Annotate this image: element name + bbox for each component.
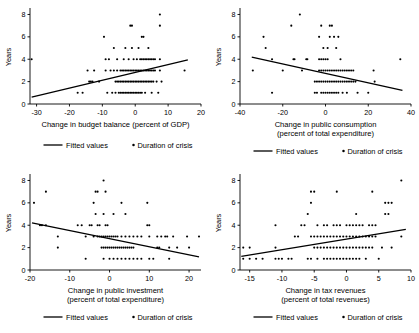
scatter-point: [297, 235, 299, 237]
y-tick-label: 2: [22, 77, 26, 86]
scatter-point: [322, 69, 324, 71]
scatter-point: [318, 58, 320, 60]
legend-dot-swatch: [342, 150, 345, 153]
scatter-point: [265, 47, 267, 49]
scatter-point: [172, 235, 174, 237]
scatter-point: [326, 235, 328, 237]
scatter-point: [322, 81, 324, 83]
scatter-point: [348, 81, 350, 83]
fitted-values-line: [32, 223, 199, 257]
scatter-point: [349, 247, 351, 249]
scatter-point: [333, 235, 335, 237]
scatter-point: [112, 213, 114, 215]
scatter-point: [101, 247, 103, 249]
axis-lines: [30, 174, 201, 270]
scatter-point: [336, 224, 338, 226]
scatter-point: [358, 224, 360, 226]
scatter-point: [329, 69, 331, 71]
scatter-point: [320, 25, 322, 27]
scatter-point: [114, 235, 116, 237]
scatter-point: [186, 235, 188, 237]
scatter-point: [387, 202, 389, 204]
scatter-point: [367, 92, 369, 94]
y-axis-title: Years: [214, 47, 223, 66]
scatter-point: [242, 258, 244, 260]
scatter-point: [318, 69, 320, 71]
scatter-point: [140, 258, 142, 260]
scatter-point: [103, 36, 105, 38]
scatter-point: [313, 191, 315, 193]
scatter-point: [314, 92, 316, 94]
scatter-point: [249, 258, 251, 260]
scatter-point: [352, 224, 354, 226]
plot-canvas: 02468-20-1001020YearsChange in public in…: [0, 166, 209, 332]
scatter-point: [291, 258, 293, 260]
scatter-point: [107, 235, 109, 237]
scatter-plot-figure: 02468-30-20-1001020YearsChange in budget…: [0, 0, 419, 333]
legend: Fitted valuesDuration of crisis: [254, 313, 403, 322]
scatter-point: [91, 224, 93, 226]
scatter-point: [352, 235, 354, 237]
scatter-point: [108, 247, 110, 249]
scatter-point: [57, 235, 59, 237]
scatter-point: [99, 224, 101, 226]
scatter-point: [287, 258, 289, 260]
scatter-point: [337, 69, 339, 71]
x-tick-label: 0: [108, 274, 112, 283]
scatter-point: [384, 202, 386, 204]
scatter-point: [249, 247, 251, 249]
scatter-point: [110, 247, 112, 249]
x-tick-label: 5: [377, 274, 381, 283]
scatter-point: [333, 224, 335, 226]
x-axis-title: Change in public consumption(percent of …: [275, 120, 377, 138]
scatter-point: [320, 235, 322, 237]
scatter-point: [349, 235, 351, 237]
scatter-point: [271, 58, 273, 60]
scatter-point: [322, 47, 324, 49]
scatter-point: [352, 258, 354, 260]
legend-label-duration-of-crisis: Duration of crisis: [348, 147, 403, 156]
scatter-point: [342, 235, 344, 237]
scatter-point: [339, 247, 341, 249]
scatter-point: [112, 258, 114, 260]
y-axis-title: Years: [4, 213, 13, 232]
x-tick-label: 40: [407, 108, 415, 117]
scatter-point: [105, 69, 107, 71]
scatter-point: [310, 235, 312, 237]
x-tick-label: 20: [197, 108, 205, 117]
scatter-point: [324, 81, 326, 83]
scatter-points: [242, 179, 402, 259]
scatter-point: [362, 247, 364, 249]
scatter-point: [327, 92, 329, 94]
scatter-point: [316, 247, 318, 249]
scatter-point: [346, 81, 348, 83]
scatter-point: [381, 247, 383, 249]
scatter-point: [358, 247, 360, 249]
scatter-point: [345, 224, 347, 226]
scatter-point: [339, 258, 341, 260]
scatter-point: [344, 69, 346, 71]
y-tick-label: 4: [232, 221, 236, 230]
legend-label-fitted-values: Fitted values: [276, 313, 318, 322]
scatter-point: [333, 81, 335, 83]
scatter-point: [103, 258, 105, 260]
scatter-point: [327, 47, 329, 49]
scatter-point: [137, 47, 139, 49]
scatter-point: [368, 224, 370, 226]
scatter-point: [116, 247, 118, 249]
plot-canvas: 02468-15-10-50510YearsChange in tax reve…: [210, 166, 419, 332]
scatter-point: [339, 235, 341, 237]
scatter-point: [293, 58, 295, 60]
scatter-point: [400, 235, 402, 237]
scatter-point: [105, 247, 107, 249]
scatter-point: [352, 247, 354, 249]
scatter-point: [262, 36, 264, 38]
panel-tax-revenues: 02468-15-10-50510YearsChange in tax reve…: [210, 166, 419, 332]
x-axis-title-line1: Change in tax revenues: [285, 286, 365, 295]
legend-dot-swatch: [132, 144, 135, 147]
scatter-point: [95, 213, 97, 215]
scatter-point: [355, 213, 357, 215]
scatter-point: [339, 224, 341, 226]
scatter-point: [324, 69, 326, 71]
scatter-point: [371, 224, 373, 226]
